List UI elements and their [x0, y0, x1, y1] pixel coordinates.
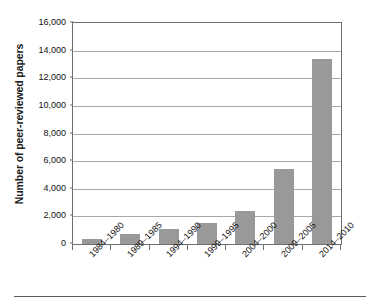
bar-slot: [73, 23, 111, 244]
y-axis-tick-label: 8,000: [43, 128, 66, 138]
y-axis-tick-label: 2,000: [43, 210, 66, 220]
bar-chart-figure: Number of peer-reviewed papers 02,0004,0…: [0, 0, 376, 306]
y-axis-tick-label-group: 02,0004,0006,0008,00010,00012,00014,0001…: [28, 16, 70, 244]
y-axis-tick-label: 16,000: [38, 17, 66, 27]
y-axis-tick-label: 10,000: [38, 100, 66, 110]
bar[interactable]: [274, 169, 294, 244]
bar-group: [73, 23, 341, 244]
bar-slot: [188, 23, 226, 244]
x-axis-tick-label-group: 1980–19841985–19891990–19941995–19992000…: [72, 250, 342, 296]
y-axis-title: Number of peer-reviewed papers: [8, 0, 30, 248]
y-axis-tick-label: 0: [61, 238, 66, 248]
bar-slot: [111, 23, 149, 244]
bar-slot: [303, 23, 341, 244]
y-axis-tick-label: 14,000: [38, 45, 66, 55]
bar-slot: [150, 23, 188, 244]
y-axis-tick-label: 6,000: [43, 155, 66, 165]
y-axis-tick-label: 12,000: [38, 72, 66, 82]
plot-area: [72, 22, 342, 245]
y-axis-title-text: Number of peer-reviewed papers: [13, 44, 25, 204]
footer-divider: [14, 296, 366, 297]
bar[interactable]: [312, 59, 332, 244]
bar-slot: [226, 23, 264, 244]
bar-slot: [264, 23, 302, 244]
y-axis-tick-label: 4,000: [43, 183, 66, 193]
